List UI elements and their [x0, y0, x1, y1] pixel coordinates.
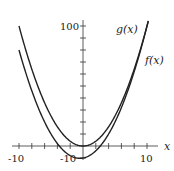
- y-tick-label-max: 100: [60, 21, 79, 32]
- curves: [19, 21, 148, 158]
- f-curve-label: f(x): [144, 54, 164, 67]
- y-tick-label-min: -10: [60, 153, 76, 164]
- x-axis-label: x: [164, 140, 171, 153]
- x-tick-label-min: -10: [8, 153, 24, 164]
- g-curve: [19, 21, 148, 146]
- g-curve-label: g(x): [116, 23, 138, 36]
- x-tick-label-max: 10: [140, 153, 153, 164]
- axes: [12, 20, 158, 160]
- chart: x -10 10 100 -10 g(x) f(x): [0, 0, 174, 171]
